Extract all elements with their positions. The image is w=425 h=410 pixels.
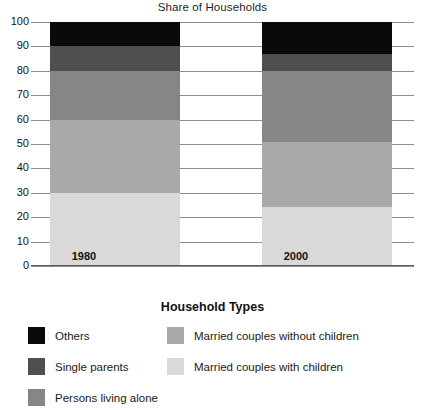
bar-segment[interactable] bbox=[50, 46, 180, 70]
legend-item[interactable]: Persons living alone bbox=[28, 382, 158, 410]
y-axis-tick-10: 10 bbox=[3, 235, 29, 247]
y-axis-tick-40: 40 bbox=[3, 161, 29, 173]
legend-item[interactable]: Married couples without children bbox=[167, 320, 359, 351]
y-axis-tick-100: 100 bbox=[3, 15, 29, 27]
x-axis-label-2000: 2000 bbox=[231, 250, 361, 262]
legend-item[interactable]: Others bbox=[28, 320, 158, 351]
bar-segment[interactable] bbox=[50, 71, 180, 120]
legend-item-label: Others bbox=[55, 330, 90, 342]
legend-item-label: Married couples without children bbox=[194, 330, 359, 342]
legend-column-right: Married couples without childrenMarried … bbox=[167, 320, 359, 382]
legend-column-left: OthersSingle parentsPersons living alone bbox=[28, 320, 158, 410]
y-axis-tick-60: 60 bbox=[3, 113, 29, 125]
legend-item-label: Single parents bbox=[55, 361, 129, 373]
x-axis-line bbox=[31, 265, 414, 266]
legend-item[interactable]: Married couples with children bbox=[167, 351, 359, 382]
y-axis-tick-30: 30 bbox=[3, 186, 29, 198]
plot-area: 1009080706050403020100 bbox=[31, 22, 414, 266]
legend: Household Types OthersSingle parentsPers… bbox=[0, 300, 425, 394]
chart-title: Share of Households bbox=[0, 1, 425, 13]
legend-swatch-icon bbox=[167, 358, 184, 375]
legend-item[interactable]: Single parents bbox=[28, 351, 158, 382]
bar-segment[interactable] bbox=[50, 22, 180, 46]
gridline bbox=[31, 266, 414, 267]
y-axis-tick-50: 50 bbox=[3, 137, 29, 149]
legend-item-label: Married couples with children bbox=[194, 361, 343, 373]
y-axis-tick-70: 70 bbox=[3, 88, 29, 100]
bar-segment[interactable] bbox=[262, 54, 392, 71]
bar-segment[interactable] bbox=[262, 142, 392, 208]
legend-swatch-icon bbox=[28, 358, 45, 375]
legend-swatch-icon bbox=[28, 327, 45, 344]
x-axis-label-1980: 1980 bbox=[19, 250, 149, 262]
y-axis-tick-90: 90 bbox=[3, 39, 29, 51]
legend-swatch-icon bbox=[167, 327, 184, 344]
bar-segment[interactable] bbox=[50, 120, 180, 193]
legend-title: Household Types bbox=[0, 300, 425, 314]
bar-segment[interactable] bbox=[262, 71, 392, 142]
legend-swatch-icon bbox=[28, 389, 45, 406]
y-axis-tick-20: 20 bbox=[3, 210, 29, 222]
bar-segment[interactable] bbox=[262, 22, 392, 54]
y-axis-tick-80: 80 bbox=[3, 64, 29, 76]
legend-item-label: Persons living alone bbox=[55, 392, 158, 404]
